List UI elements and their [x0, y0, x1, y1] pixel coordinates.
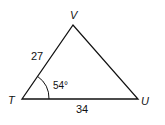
- vertex-label-t: T: [8, 94, 16, 106]
- side-label-tv: 27: [31, 50, 43, 62]
- angle-arc-t: [38, 76, 49, 99]
- vertex-label-u: U: [141, 95, 149, 107]
- vertex-label-v: V: [70, 9, 79, 21]
- side-label-tu: 34: [76, 103, 88, 115]
- triangle-diagram: V T U 27 54° 34: [0, 0, 165, 125]
- triangle-tvu: [22, 25, 138, 99]
- angle-label-t: 54°: [53, 80, 68, 91]
